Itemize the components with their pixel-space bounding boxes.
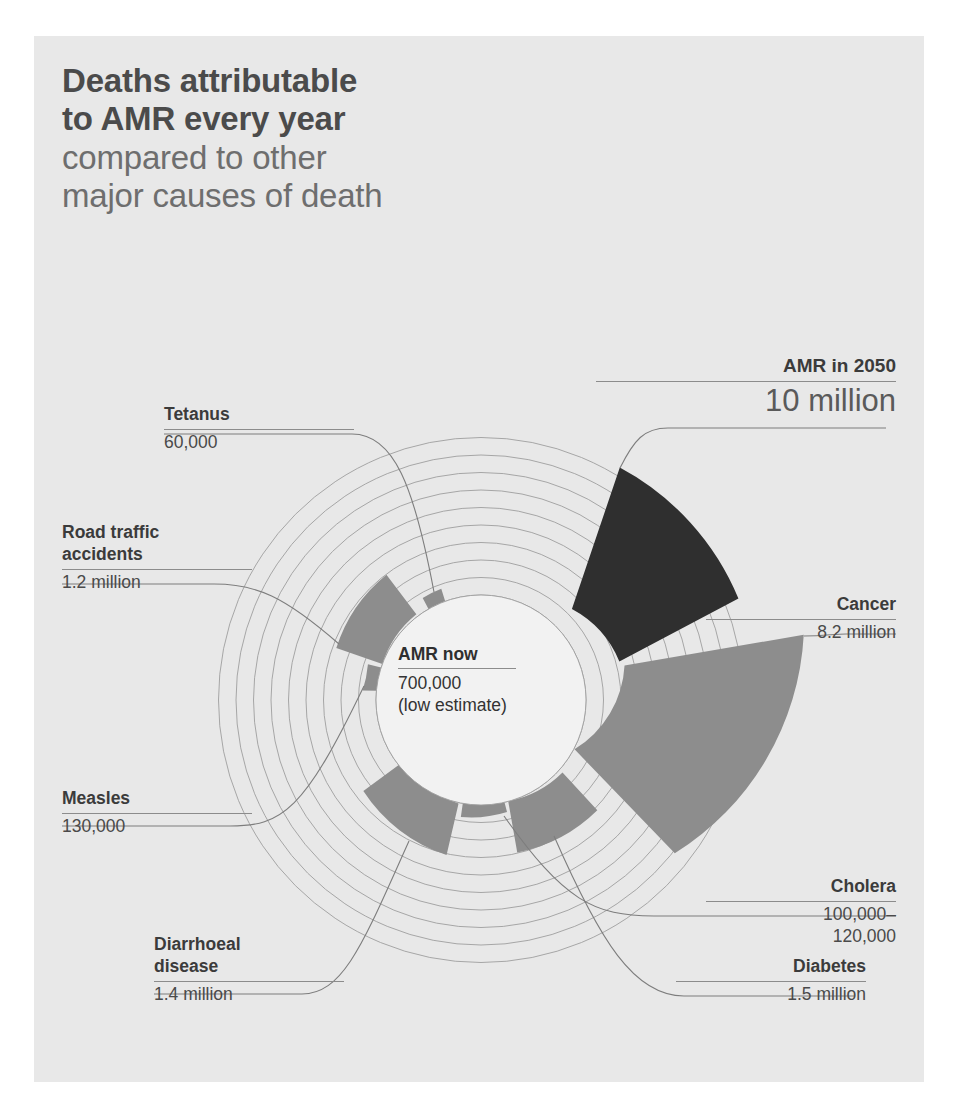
callout-cancer-label: Cancer [706, 594, 896, 616]
center-label-note: (low estimate) [398, 694, 588, 716]
callout-cholera: Cholera 100,000– 120,000 [706, 876, 896, 948]
infographic-panel: Deaths attributable to AMR every year co… [34, 36, 924, 1082]
callout-diarrhoeal-disease-label-1: Diarrhoeal [154, 934, 344, 956]
callout-measles-label: Measles [62, 788, 252, 810]
callout-cancer: Cancer 8.2 million [706, 594, 896, 644]
callout-measles: Measles 130,000 [62, 788, 252, 838]
callout-amr-in-2050-value: 10 million [596, 384, 896, 418]
callout-road-traffic-accidents-value: 1.2 million [62, 572, 252, 594]
callout-rule [706, 901, 896, 902]
title-line-2: to AMR every year [62, 100, 522, 138]
callout-rule [62, 813, 252, 814]
callout-cancer-value: 8.2 million [706, 622, 896, 644]
callout-rule [164, 429, 354, 430]
center-label: AMR now 700,000 (low estimate) [398, 644, 588, 717]
title-line-3: compared to other [62, 139, 522, 177]
callout-rule [676, 981, 866, 982]
callout-diabetes-value: 1.5 million [676, 984, 866, 1006]
center-label-rule [398, 668, 516, 669]
callout-rule [706, 619, 896, 620]
callout-cholera-label: Cholera [706, 876, 896, 898]
title-line-1: Deaths attributable [62, 62, 522, 100]
callout-rule [62, 569, 252, 570]
callout-rule [154, 981, 344, 982]
leader-line-amr-2050 [620, 428, 886, 468]
callout-measles-value: 130,000 [62, 816, 252, 838]
callout-road-traffic-accidents: Road traffic accidents 1.2 million [62, 522, 252, 594]
callout-diarrhoeal-disease-value: 1.4 million [154, 984, 344, 1006]
center-label-title: AMR now [398, 644, 588, 665]
callout-tetanus-label: Tetanus [164, 404, 354, 426]
callout-tetanus-value: 60,000 [164, 432, 354, 454]
title-line-4: major causes of death [62, 177, 522, 215]
callout-diarrhoeal-disease-label-2: disease [154, 956, 344, 978]
callout-road-traffic-accidents-label-1: Road traffic [62, 522, 252, 544]
page-title: Deaths attributable to AMR every year co… [62, 62, 522, 215]
wedge-cancer [575, 635, 804, 854]
callout-cholera-value: 100,000– [706, 904, 896, 926]
callout-amr-in-2050-label: AMR in 2050 [596, 354, 896, 378]
callout-amr-in-2050: AMR in 2050 10 million [596, 354, 896, 418]
callout-diabetes-label: Diabetes [676, 956, 866, 978]
callout-diabetes: Diabetes 1.5 million [676, 956, 866, 1006]
callout-road-traffic-accidents-label-2: accidents [62, 544, 252, 566]
callout-diarrhoeal-disease: Diarrhoeal disease 1.4 million [154, 934, 344, 1006]
callout-tetanus: Tetanus 60,000 [164, 404, 354, 454]
callout-cholera-value-2: 120,000 [706, 926, 896, 948]
callout-rule [596, 381, 896, 382]
center-label-value: 700,000 [398, 672, 588, 694]
